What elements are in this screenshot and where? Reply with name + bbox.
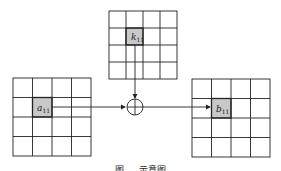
key-matrix-grid: k11: [109, 11, 177, 79]
figure-caption: 图 … 示意图: [0, 163, 281, 171]
xor-operator-icon: [127, 99, 143, 115]
xor-diagram: k11 a11 b11: [0, 0, 281, 171]
input-matrix-grid: a11: [13, 78, 91, 156]
output-matrix-grid: b11: [192, 79, 270, 157]
